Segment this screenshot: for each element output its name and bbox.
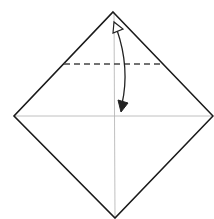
background: [0, 0, 214, 219]
origami-diagram: [0, 0, 214, 219]
